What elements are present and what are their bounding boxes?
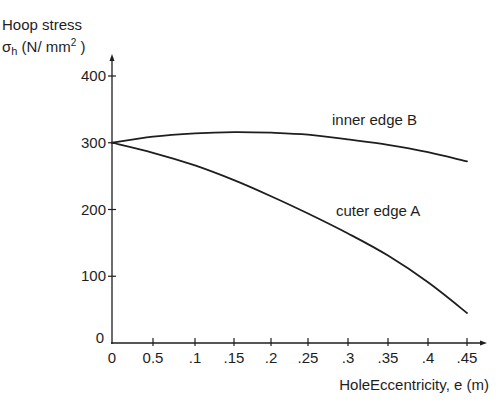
x-tick-label: .45 [457, 349, 478, 366]
y-tick-label: 400 [81, 67, 106, 84]
x-axis-arrow-icon [480, 341, 487, 346]
hoop-stress-chart: Hoop stress σh (N/ mm2 ) 0100200300400 0… [0, 0, 499, 405]
y-tick-label: 200 [81, 201, 106, 218]
y-tick-label: 100 [81, 267, 106, 284]
y-tick-label: 300 [81, 134, 106, 151]
x-tick-label: .4 [422, 349, 435, 366]
x-tick-label: .2 [265, 349, 278, 366]
y-axis-arrow-icon [110, 54, 115, 61]
x-tick-label: 0 [108, 349, 116, 366]
series-label-inner-edge-b: inner edge B [332, 111, 417, 128]
x-tick-label: .35 [378, 349, 399, 366]
axes [111, 58, 482, 344]
series-label-outer-edge-a: cuter edge A [336, 202, 420, 219]
y-ticks: 0100200300400 [81, 67, 116, 346]
x-tick-label: .1 [189, 349, 202, 366]
x-tick-label: .3 [342, 349, 355, 366]
y-axis-label-line2: σh (N/ mm2 ) [2, 37, 85, 57]
x-tick-label: .15 [224, 349, 245, 366]
x-ticks: 00.5.1.15.2.25.3.35.4.45 [108, 338, 478, 366]
x-axis-label: HoleEccentricity, e (m) [339, 376, 489, 393]
y-tick-label: 0 [96, 329, 104, 346]
y-axis-label-line1: Hoop stress [2, 16, 82, 33]
x-tick-label: .25 [298, 349, 319, 366]
series-outer-edge-a [112, 143, 467, 313]
x-tick-label: 0.5 [143, 349, 164, 366]
